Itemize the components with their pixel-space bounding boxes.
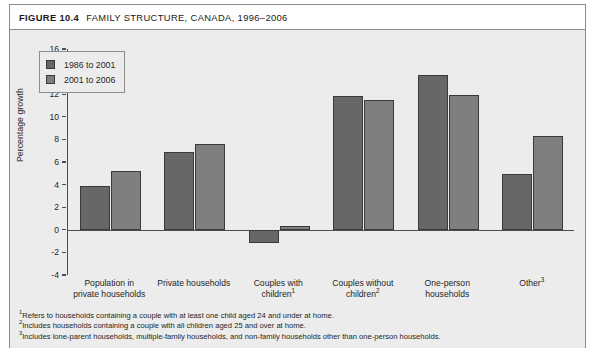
plot-area: 1614121086420-2-4 xyxy=(67,49,574,275)
y-axis-tick-label: 0 xyxy=(39,225,59,235)
legend-swatch xyxy=(46,75,55,84)
figure-caption-bar: FIGURE 10.4 FAMILY STRUCTURE, CANADA, 19… xyxy=(10,5,585,30)
y-axis-tick: 10 xyxy=(39,112,68,122)
y-axis-tick-label: 4 xyxy=(39,180,59,190)
y-axis-tick-mark xyxy=(62,94,66,95)
footnote-text: Includes households containing a couple … xyxy=(22,321,306,330)
footnote-marker: 1 xyxy=(292,287,296,294)
y-axis-tick: 4 xyxy=(39,180,68,190)
footnote-text: Includes lone-parent households, multipl… xyxy=(22,332,440,341)
y-axis-tick-mark xyxy=(62,252,66,253)
chart-panel: Percentage growth 1614121086420-2-4 Popu… xyxy=(10,30,585,348)
figure-number: FIGURE 10.4 xyxy=(19,12,79,23)
figure-container: FIGURE 10.4 FAMILY STRUCTURE, CANADA, 19… xyxy=(9,4,586,348)
x-axis-label-line: households xyxy=(397,289,498,300)
y-axis-tick-mark xyxy=(62,161,66,162)
y-axis-tick: 2 xyxy=(39,202,68,212)
legend-label: 1986 to 2001 xyxy=(64,60,115,70)
legend-swatch xyxy=(46,60,55,69)
y-axis-tick-label: 10 xyxy=(39,112,59,122)
y-axis-tick-mark xyxy=(62,116,66,117)
footnote: 1Refers to households containing a coupl… xyxy=(19,311,579,321)
footnotes-block: 1Refers to households containing a coupl… xyxy=(19,311,579,342)
x-axis-label-line: private households xyxy=(59,289,160,300)
y-axis-tick-label: 8 xyxy=(39,134,59,144)
footnote: 3Includes lone-parent households, multip… xyxy=(19,332,579,342)
legend-item[interactable]: 1986 to 2001 xyxy=(46,57,115,72)
y-axis-tick-mark xyxy=(62,229,66,230)
y-axis-tick-label: -4 xyxy=(39,270,59,280)
x-axis-label: Other3 xyxy=(482,278,583,289)
x-axis-label-line: Other3 xyxy=(482,278,583,289)
y-axis-tick-label: 6 xyxy=(39,157,59,167)
bar-group xyxy=(68,49,575,275)
bar[interactable] xyxy=(502,174,532,229)
chart-legend: 1986 to 20012001 to 2006 xyxy=(39,51,125,93)
y-axis-tick-mark xyxy=(62,48,66,49)
legend-label: 2001 to 2006 xyxy=(64,75,115,85)
y-axis-tick-label: 2 xyxy=(39,202,59,212)
legend-item[interactable]: 2001 to 2006 xyxy=(46,72,115,87)
y-axis-tick: 8 xyxy=(39,134,68,144)
y-axis-tick: 0 xyxy=(39,225,68,235)
y-axis-tick-mark xyxy=(62,274,66,275)
figure-title: FAMILY STRUCTURE, CANADA, 1996–2006 xyxy=(86,12,288,23)
y-axis-tick: -2 xyxy=(39,247,68,257)
footnote-text: Refers to households containing a couple… xyxy=(22,311,334,320)
y-axis-title: Percentage growth xyxy=(15,88,25,162)
y-axis-tick-label: -2 xyxy=(39,247,59,257)
y-axis-tick-mark xyxy=(62,207,66,208)
y-axis-tick: 6 xyxy=(39,157,68,167)
footnote-marker: 2 xyxy=(376,287,380,294)
bar[interactable] xyxy=(533,136,563,230)
footnote: 2Includes households containing a couple… xyxy=(19,321,579,331)
footnote-marker: 3 xyxy=(541,276,545,283)
y-axis-tick-mark xyxy=(62,139,66,140)
y-axis-tick-mark xyxy=(62,184,66,185)
x-axis-labels: Population inprivate householdsPrivate h… xyxy=(67,278,574,306)
